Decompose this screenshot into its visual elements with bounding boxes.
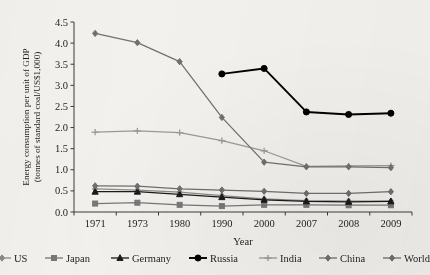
legend-label: Japan bbox=[66, 253, 91, 264]
y-axis-tick-label: 3.0 bbox=[55, 80, 68, 91]
legend-label: World bbox=[404, 253, 430, 264]
legend-item-japan[interactable]: Japan bbox=[45, 253, 91, 264]
y-axis-tick-label: 0.0 bbox=[55, 207, 68, 218]
data-point-square bbox=[219, 204, 224, 209]
y-axis-tick-label: 0.5 bbox=[55, 185, 68, 196]
y-axis-tick-label: 1.0 bbox=[55, 164, 68, 175]
x-axis-tick-label: 1990 bbox=[211, 218, 232, 229]
x-axis-tick-label: 2007 bbox=[296, 218, 317, 229]
data-point-diamond bbox=[325, 255, 330, 261]
data-point-diamond bbox=[346, 164, 351, 170]
series-russia bbox=[219, 65, 394, 117]
x-axis-title: Year bbox=[233, 236, 253, 247]
chart-axes bbox=[74, 22, 412, 212]
data-point-diamond bbox=[262, 188, 267, 194]
y-axis-tick-label: 3.5 bbox=[55, 59, 68, 70]
chart-canvas: 0.00.51.01.52.02.53.03.54.04.51971197319… bbox=[0, 0, 430, 275]
legend-label: Russia bbox=[210, 253, 238, 264]
x-axis-tick-label: 2008 bbox=[338, 218, 359, 229]
data-point-square bbox=[262, 202, 267, 207]
data-point-circle bbox=[219, 71, 225, 77]
x-axis-tick-label: 1980 bbox=[169, 218, 190, 229]
data-point-circle bbox=[303, 109, 309, 115]
data-point-square bbox=[93, 201, 98, 206]
data-point-diamond bbox=[93, 30, 98, 36]
legend-label: Germany bbox=[132, 253, 172, 264]
legend-item-china[interactable]: China bbox=[319, 253, 365, 264]
legend-label: India bbox=[280, 253, 302, 264]
data-point-square bbox=[135, 200, 140, 205]
data-point-circle bbox=[346, 111, 352, 117]
data-point-diamond bbox=[388, 189, 393, 195]
x-axis-tick-label: 1971 bbox=[85, 218, 106, 229]
y-axis-tick-label: 2.5 bbox=[55, 101, 68, 112]
legend-label: US bbox=[14, 253, 28, 264]
data-point-diamond bbox=[304, 164, 309, 170]
y-axis-tick-label: 1.5 bbox=[55, 143, 68, 154]
y-axis-title: Energy consumption per unit of GDP(tonne… bbox=[21, 48, 42, 185]
x-axis-tick-label: 2009 bbox=[380, 218, 401, 229]
data-point-diamond bbox=[219, 187, 224, 193]
series-line bbox=[95, 131, 391, 166]
legend-item-us[interactable]: US bbox=[0, 253, 28, 264]
data-point-diamond bbox=[135, 40, 140, 46]
legend-item-india[interactable]: India bbox=[259, 253, 302, 264]
y-axis-tick-label: 4.0 bbox=[55, 38, 68, 49]
chart-legend: USJapanGermanyRussiaIndiaChinaWorld bbox=[0, 253, 430, 264]
legend-item-germany[interactable]: Germany bbox=[111, 253, 172, 264]
energy-intensity-line-chart: 0.00.51.01.52.02.53.03.54.04.51971197319… bbox=[0, 0, 430, 275]
series-china bbox=[93, 30, 394, 171]
y-axis-title-line2: (tonnes of standard coal/US$1,000) bbox=[32, 52, 42, 183]
data-point-circle bbox=[261, 65, 267, 71]
data-point-diamond bbox=[304, 190, 309, 196]
legend-label: China bbox=[340, 253, 365, 264]
series-line bbox=[95, 33, 391, 167]
series-line bbox=[222, 68, 391, 114]
data-point-diamond bbox=[346, 190, 351, 196]
data-point-square bbox=[177, 202, 182, 207]
data-point-diamond bbox=[0, 255, 5, 261]
x-axis-tick-label: 1973 bbox=[127, 218, 148, 229]
series-india bbox=[92, 128, 395, 170]
data-point-square bbox=[52, 256, 57, 261]
y-axis-title-line1: Energy consumption per unit of GDP bbox=[21, 48, 31, 185]
x-axis-tick-label: 2000 bbox=[254, 218, 275, 229]
y-axis-tick-label: 2.0 bbox=[55, 122, 68, 133]
data-point-circle bbox=[195, 255, 201, 261]
legend-item-russia[interactable]: Russia bbox=[189, 253, 238, 264]
data-point-circle bbox=[388, 110, 394, 116]
legend-item-world[interactable]: World bbox=[383, 253, 430, 264]
y-axis-tick-label: 4.5 bbox=[55, 17, 68, 28]
data-point-diamond bbox=[389, 255, 394, 261]
